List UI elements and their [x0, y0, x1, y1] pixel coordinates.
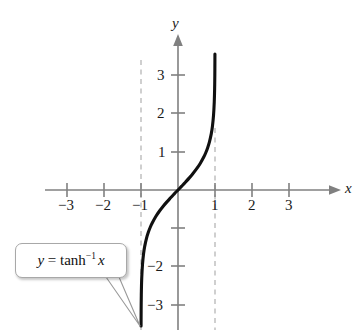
callout-function: tanh: [60, 252, 86, 268]
y-tick-label-2: 2: [157, 106, 165, 121]
callout-argument: x: [98, 252, 105, 268]
equation-callout: y = tanh−1x: [15, 243, 127, 278]
axes-group: [45, 34, 341, 330]
y-tick-label--3: −3: [147, 298, 163, 313]
tanh-inverse-graph-figure: x y −3 −2 −1 1 2 3 3 2 1 −2 −3 y = tanh−…: [0, 0, 362, 334]
x-tick-label-3: 3: [285, 198, 293, 213]
x-tick-label-2: 2: [248, 198, 256, 213]
callout-equals: =: [44, 252, 60, 268]
y-axis-arrow-icon: [173, 34, 183, 46]
y-tick-label-3: 3: [157, 68, 165, 83]
callout-exponent: −1: [86, 251, 96, 261]
x-tick-label-1: 1: [211, 198, 219, 213]
y-tick-label-1: 1: [158, 145, 166, 160]
x-tick-label--1: −1: [132, 198, 148, 213]
y-tick-label--2: −2: [147, 259, 163, 274]
x-axis-arrow-icon: [329, 185, 341, 195]
x-tick-label--2: −2: [95, 198, 111, 213]
y-axis-label: y: [172, 16, 179, 31]
x-tick-label--3: −3: [58, 198, 74, 213]
plot-canvas: [0, 0, 362, 334]
equation-callout-label: y = tanh−1x: [37, 253, 104, 268]
x-axis-label: x: [345, 181, 352, 196]
